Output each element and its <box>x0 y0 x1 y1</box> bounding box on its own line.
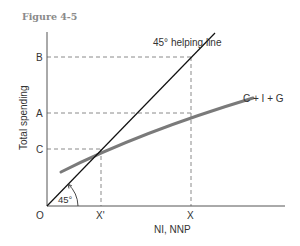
cig-curve <box>61 98 253 172</box>
tick-label-A: A <box>36 108 43 119</box>
chart-canvas: B A C O X' X 45° 45° helping line C + I … <box>0 0 300 246</box>
tick-label-Xprime: X' <box>96 210 105 221</box>
origin-label: O <box>36 210 44 221</box>
tick-label-X: X <box>187 210 194 221</box>
tick-label-C: C <box>36 144 43 155</box>
angle-label: 45° <box>58 194 73 205</box>
x-axis-label: NI, NNP <box>154 224 191 235</box>
cig-label: C + I + G <box>243 93 284 104</box>
y-axis-label: Total spending <box>18 86 29 151</box>
tick-label-B: B <box>36 52 43 63</box>
helping-line-label: 45° helping line <box>153 37 222 48</box>
